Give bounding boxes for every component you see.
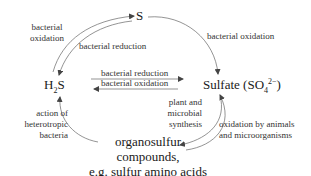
node-hydrogen-sulfide: H2S bbox=[44, 78, 65, 95]
arrow-s-to-sulfate bbox=[148, 17, 218, 74]
label-s-to-sulfate: bacterial oxidation bbox=[207, 32, 274, 41]
node-sulfur: S bbox=[136, 9, 143, 22]
label-sulfate-to-organo: plant and microbial synthesis bbox=[160, 97, 202, 130]
label-s-to-h2s: bacterial reduction bbox=[79, 42, 146, 51]
label-organo-to-h2s: action of heterotropic bacteria bbox=[6, 108, 68, 141]
node-sulfate: Sulfate (SO42−) bbox=[203, 78, 281, 95]
node-organosulfur: organosulfur compounds, e.g. sulfur amin… bbox=[78, 134, 218, 176]
label-h2s-to-sulfate: bacterial oxidation bbox=[101, 79, 168, 88]
label-h2s-to-s: bacterial oxidation bbox=[24, 22, 70, 44]
label-sulfate-to-h2s: bacterial reduction bbox=[101, 69, 168, 78]
label-organo-to-sulfate: oxidation by animals and microorganisms bbox=[219, 119, 295, 141]
